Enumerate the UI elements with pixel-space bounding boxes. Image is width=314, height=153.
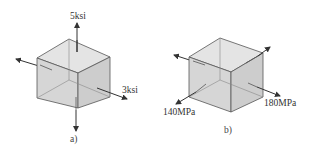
stress-element-diagram: 5ksi 3ksi a) 140MPa 180MPa b) — [0, 0, 314, 153]
figure-a: 5ksi 3ksi a) — [16, 11, 138, 145]
stress-label-140MPa: 140MPa — [163, 107, 196, 117]
stress-label-180MPa: 180MPa — [264, 98, 297, 108]
figure-b: 140MPa 180MPa b) — [163, 38, 297, 136]
stress-label-5ksi: 5ksi — [70, 11, 86, 21]
caption-a: a) — [70, 134, 77, 145]
caption-b: b) — [224, 125, 232, 136]
stress-label-3ksi: 3ksi — [122, 85, 138, 95]
